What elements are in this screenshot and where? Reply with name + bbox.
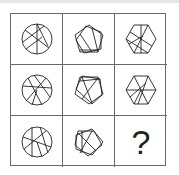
cell-r2-c1	[11, 65, 63, 116]
cell-r1-c3	[115, 14, 167, 65]
cell-r1-c1	[11, 14, 63, 65]
cell-r2-c3	[115, 65, 167, 116]
hexagon-lines-icon	[124, 73, 158, 107]
star-pentagon-lines-icon	[72, 125, 106, 159]
hexagon-lines-icon	[124, 22, 158, 56]
cell-r2-c2	[63, 65, 115, 116]
cell-r3-c1	[11, 116, 63, 167]
top-border	[0, 0, 179, 3]
circle-lines-icon	[20, 73, 54, 107]
cell-r3-c2	[63, 116, 115, 167]
question-mark: ?	[132, 125, 151, 159]
star-pentagon-lines-icon	[72, 22, 106, 56]
star-pentagon-lines-icon	[72, 73, 106, 107]
circle-lines-icon	[20, 22, 54, 56]
cell-r3-c3-answer: ?	[115, 116, 167, 167]
cell-r1-c2	[63, 14, 115, 65]
puzzle-grid: ?	[10, 13, 166, 166]
circle-lines-icon	[20, 125, 54, 159]
